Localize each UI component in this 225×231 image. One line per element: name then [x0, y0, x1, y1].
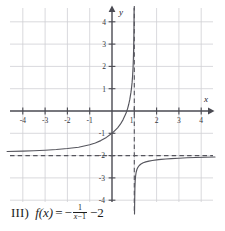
denominator-constant: −1	[77, 212, 86, 221]
curve-left-branch	[7, 8, 134, 152]
y-tick-label: -3	[99, 174, 105, 183]
curve-right-branch	[135, 157, 216, 214]
figure-caption: III)f(x)=−1x−1−2	[11, 205, 104, 223]
fraction-denominator: x−1	[73, 212, 87, 221]
y-axis-label: y	[118, 7, 123, 17]
x-tick-label: -2	[64, 116, 70, 125]
x-tick-label: -3	[42, 116, 48, 125]
y-tick-label: 2	[102, 62, 106, 71]
coordinate-plot: -4 -3 -2 -1 1 2 3 4 -4 -3 -2 -1 1 2 3 4 …	[0, 0, 225, 231]
y-tick-label: -1	[99, 129, 105, 138]
y-tick-label: 4	[102, 18, 106, 27]
caption-label: III)	[11, 205, 29, 220]
caption-trailing-term: −2	[90, 205, 104, 220]
y-tick-label: 1	[102, 85, 106, 94]
axes	[10, 12, 208, 202]
x-axis-label: x	[203, 94, 208, 104]
x-tick-label: -1	[87, 116, 93, 125]
x-tick-label: 1	[130, 116, 134, 125]
x-tick-label: -4	[20, 116, 26, 125]
caption-equals-sign: =	[55, 205, 62, 220]
caption-function-name: f(x)	[35, 205, 53, 220]
x-tick-label: 2	[155, 116, 159, 125]
y-axis-arrowhead	[109, 6, 116, 13]
y-tick-label: 3	[102, 40, 106, 49]
x-tick-label: 4	[199, 116, 203, 125]
caption-leading-minus: −	[65, 205, 72, 220]
x-axis-arrowhead	[208, 108, 215, 115]
fraction-numerator: 1	[73, 204, 87, 212]
y-tick-label: -4	[99, 196, 105, 205]
function-graph-figure: -4 -3 -2 -1 1 2 3 4 -4 -3 -2 -1 1 2 3 4 …	[0, 0, 225, 231]
x-tick-label: 3	[177, 116, 181, 125]
caption-fraction: 1x−1	[73, 204, 87, 222]
